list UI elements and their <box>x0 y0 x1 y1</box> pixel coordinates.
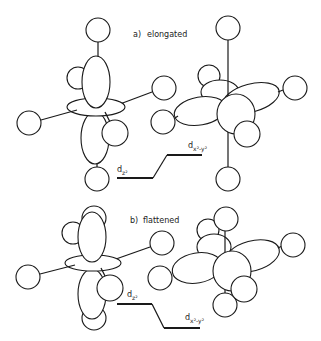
ligand-front-right <box>234 121 260 147</box>
lobe-upper <box>82 56 110 108</box>
ligand-right <box>281 233 305 257</box>
ligand-front-right <box>102 120 128 146</box>
orbital-diagram: a) elongated <box>0 0 321 341</box>
ligand-left <box>16 265 40 289</box>
ligand-right <box>150 231 174 255</box>
bond-right <box>116 247 150 259</box>
dx2y2-complex-a <box>151 16 307 191</box>
label-dx2y2-b: dx²-y² <box>185 313 205 325</box>
label-dx2y2-a: dx²-y² <box>188 141 208 153</box>
ligand-left <box>148 266 172 290</box>
bond-left <box>40 265 75 274</box>
dz2-complex-a <box>17 18 176 191</box>
bond-left <box>41 110 77 120</box>
lobe-upper <box>78 212 106 262</box>
panel-a-label: a) <box>133 30 141 39</box>
panel-a-title: elongated <box>147 30 187 39</box>
level-connector <box>152 304 164 328</box>
energy-diagram-a: dz² dx²-y² <box>117 141 208 178</box>
ligand-right <box>152 76 176 100</box>
ligand-front-right <box>231 276 257 302</box>
panel-b-label: b) <box>130 216 138 225</box>
panel-a: a) elongated <box>17 16 307 191</box>
label-dz2-b: dz² <box>127 290 138 301</box>
level-connector <box>153 155 167 178</box>
panel-b: b) flattened <box>16 206 305 330</box>
ligand-bottom <box>85 167 109 191</box>
bond-right <box>120 92 152 104</box>
ligand-top <box>86 18 110 42</box>
ligand-bottom <box>216 167 240 191</box>
energy-diagram-b: dz² dx²-y² <box>117 290 205 328</box>
label-dz2-a: dz² <box>117 165 128 176</box>
ligand-top <box>216 16 240 40</box>
ligand-left <box>151 110 175 134</box>
panel-b-title: flattened <box>143 216 179 225</box>
ligand-front-right <box>97 275 123 301</box>
ligand-left <box>17 111 41 135</box>
ligand-top <box>214 207 238 231</box>
ligand-right <box>283 76 307 100</box>
